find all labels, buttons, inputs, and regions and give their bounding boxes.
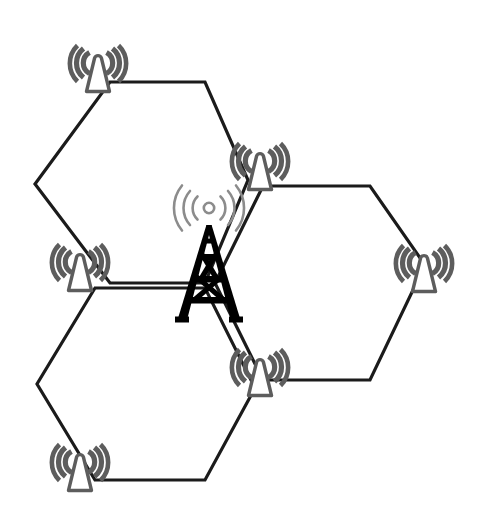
cell-antenna-icon-left-middle[interactable] bbox=[52, 245, 108, 291]
diagram-canvas bbox=[0, 0, 481, 529]
tower-radio-waves-icon bbox=[174, 186, 244, 231]
cell-antenna-icon-lower-right[interactable] bbox=[232, 350, 288, 396]
antenna-glyph bbox=[396, 246, 452, 292]
antenna-glyph bbox=[52, 445, 108, 491]
antennas-layer bbox=[52, 46, 452, 491]
cell-antenna-icon-far-right[interactable] bbox=[396, 246, 452, 292]
cell-antenna-icon-bottom-left[interactable] bbox=[52, 445, 108, 491]
hexagonal-cell-right[interactable] bbox=[215, 186, 425, 380]
antenna-glyph bbox=[70, 46, 126, 92]
antenna-glyph bbox=[52, 245, 108, 291]
cell-antenna-icon-top-left[interactable] bbox=[70, 46, 126, 92]
hexagonal-cells-layer bbox=[35, 82, 425, 480]
transmission-tower-icon[interactable] bbox=[174, 186, 244, 323]
cell-antenna-icon-upper-right[interactable] bbox=[232, 144, 288, 190]
antenna-glyph bbox=[232, 350, 288, 396]
antenna-glyph bbox=[232, 144, 288, 190]
network-cell-diagram: Cellular Network Coverage Diagram Three … bbox=[0, 0, 481, 529]
